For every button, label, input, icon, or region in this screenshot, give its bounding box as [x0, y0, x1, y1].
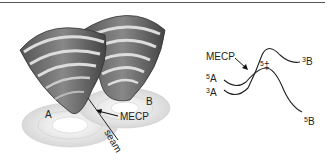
quintet-curve [224, 68, 302, 112]
label-transition-state: 5‡ [260, 60, 269, 71]
label-mecp-right: MECP [206, 52, 235, 62]
label-3a: 3A [206, 87, 217, 98]
label-5b: 5B [304, 116, 315, 127]
label-minimum-b: B [146, 97, 153, 107]
label-mecp-left: MECP [120, 112, 149, 122]
pes-diagram [0, 0, 331, 164]
label-5a: 5A [206, 73, 217, 84]
triplet-curve [224, 49, 300, 95]
label-minimum-a: A [45, 110, 52, 120]
label-3b: 3B [302, 56, 313, 67]
